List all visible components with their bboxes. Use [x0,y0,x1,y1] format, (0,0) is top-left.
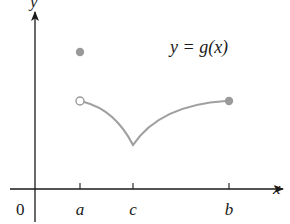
open-point-at-a [76,97,84,105]
tick-label-b: b [225,200,234,219]
function-graph: y x 0 a c b y = g(x) [0,0,290,224]
origin-label: 0 [16,200,25,219]
filled-point-at-a [76,48,84,56]
x-axis-label: x [272,179,281,198]
curve-left-branch [84,102,133,145]
y-axis-label: y [28,0,38,11]
function-label: y = g(x) [168,37,228,58]
filled-point-at-b [225,97,233,105]
tick-label-c: c [129,200,137,219]
tick-label-a: a [76,200,85,219]
curve-right-branch [133,101,226,145]
